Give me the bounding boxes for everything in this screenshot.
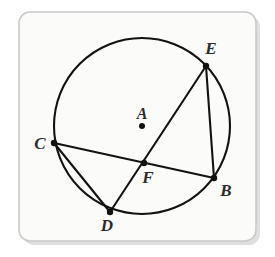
point-label-d: D bbox=[100, 216, 113, 235]
center-point-a-dot bbox=[139, 123, 145, 129]
point-f-dot bbox=[141, 160, 147, 166]
point-label-a: A bbox=[136, 105, 148, 122]
point-e-dot bbox=[203, 63, 209, 69]
point-c-dot bbox=[51, 140, 57, 146]
geometry-figure-container: A B C D E F bbox=[0, 0, 275, 257]
point-d-dot bbox=[107, 209, 113, 215]
circle-geometry-diagram: A B C D E F bbox=[0, 0, 275, 257]
point-label-c: C bbox=[34, 134, 46, 153]
point-label-e: E bbox=[204, 39, 216, 58]
point-label-b: B bbox=[219, 181, 231, 200]
point-label-f: F bbox=[141, 168, 154, 187]
point-b-dot bbox=[211, 175, 217, 181]
